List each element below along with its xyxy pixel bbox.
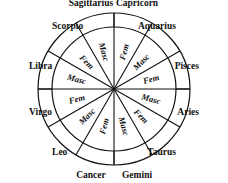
polarity-label-virgo: Fem (67, 92, 87, 106)
outer-ring-tick (76, 143, 83, 155)
zodiac-wheel-svg: FemMascFemMascFemMascFemMascFemMascFemMa… (0, 0, 228, 183)
wheel-spokes (52, 27, 176, 151)
sign-label-taurus: Taurus (147, 147, 176, 157)
outer-ring-tick (48, 51, 60, 58)
sign-label-scorpio: Scorpio (52, 21, 83, 31)
sign-label-pisces: Pisces (175, 61, 200, 71)
zodiac-wheel-diagram: FemMascFemMascFemMascFemMascFemMascFemMa… (0, 0, 228, 183)
polarity-label-pisces: Fem (141, 72, 161, 86)
sign-label-sagittarius: Sagittarius (69, 0, 114, 8)
sign-label-aquarius: Aquarius (138, 21, 176, 31)
sign-label-leo: Leo (52, 147, 68, 157)
polarity-label-gemini: Masc (116, 115, 131, 137)
polarity-label-aries: Masc (140, 91, 162, 106)
outer-ring-tick (48, 120, 60, 127)
polarity-label-libra: Masc (65, 71, 87, 86)
sign-label-cancer: Cancer (76, 170, 106, 180)
sign-label-libra: Libra (29, 61, 52, 71)
polarity-label-sagittarius: Masc (96, 40, 111, 62)
sign-label-aries: Aries (177, 107, 199, 117)
polarity-label-scorpio: Fem (77, 52, 96, 71)
outer-ring-tick (168, 51, 180, 58)
sign-label-virgo: Virgo (29, 107, 52, 117)
polarity-label-cancer: Fem (97, 117, 111, 137)
outer-ring-tick (168, 120, 180, 127)
sign-label-capricorn: Capricorn (116, 0, 159, 8)
polarity-label-capricorn: Fem (117, 42, 131, 62)
sign-label-gemini: Gemini (122, 170, 152, 180)
